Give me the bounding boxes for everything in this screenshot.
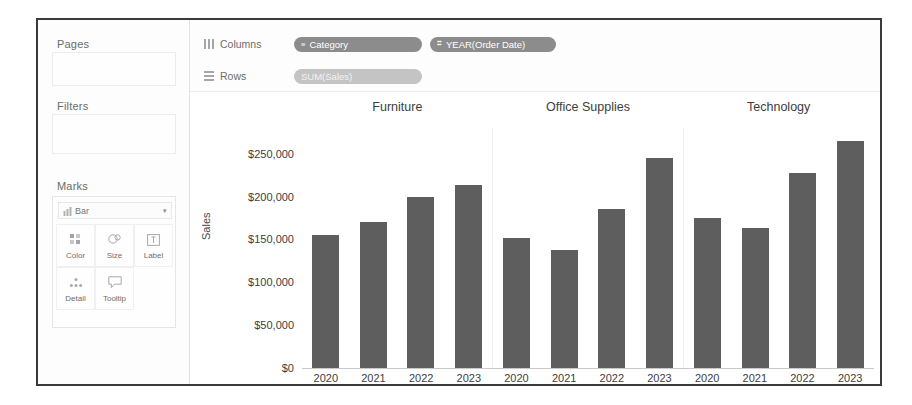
- bar-panels: [302, 128, 874, 368]
- bar-slot: [445, 128, 493, 368]
- bar[interactable]: [694, 218, 721, 368]
- bar[interactable]: [551, 250, 578, 368]
- marks-button-label[interactable]: Label: [134, 224, 173, 267]
- dimension-icon: ≡: [301, 40, 305, 49]
- marks-card: Bar ▾ Color: [52, 196, 176, 328]
- marks-button-label-text: Label: [144, 251, 164, 260]
- bar-slot: [302, 128, 350, 368]
- category-header: Office Supplies: [493, 100, 684, 124]
- x-axis-tick-label: 2023: [445, 372, 493, 392]
- shelves-area: Columns ≡ Category ⌗ YEAR(Order Date): [190, 20, 880, 92]
- category-header: Furniture: [302, 100, 493, 124]
- bar-slot: [350, 128, 398, 368]
- y-axis-tick-label: $100,000: [248, 276, 294, 288]
- marks-button-label: Color: [66, 251, 85, 260]
- marks-button-label: Tooltip: [103, 294, 126, 303]
- bar[interactable]: [360, 222, 387, 368]
- pill-sum-sales[interactable]: SUM(Sales): [294, 69, 422, 84]
- marks-button-label: Detail: [65, 294, 85, 303]
- header-spacer: [190, 100, 302, 124]
- category-header: Technology: [683, 100, 874, 124]
- label-box-icon: [147, 231, 160, 248]
- tooltip-bubble-icon: [108, 274, 122, 291]
- y-axis-title: Sales: [200, 212, 212, 240]
- marks-button-tooltip[interactable]: Tooltip: [95, 267, 134, 310]
- bar[interactable]: [455, 185, 482, 368]
- x-axis-tick-label: 2021: [731, 372, 779, 392]
- x-axis-labels: 2020202120222023202020212022202320202021…: [302, 372, 874, 392]
- columns-shelf[interactable]: Columns ≡ Category ⌗ YEAR(Order Date): [190, 30, 880, 58]
- bar[interactable]: [503, 238, 530, 368]
- y-axis-ticks: $0$50,000$100,000$150,000$200,000$250,00…: [216, 128, 300, 368]
- bar-slot: [493, 128, 541, 368]
- x-axis-tick-label: 2020: [302, 372, 350, 392]
- size-circles-icon: [108, 231, 122, 248]
- bar-slot: [732, 128, 780, 368]
- y-axis-tick-label: $0: [282, 362, 294, 374]
- plot-area: Sales $0$50,000$100,000$150,000$200,000$…: [190, 128, 874, 384]
- bar[interactable]: [837, 141, 864, 368]
- rows-shelf[interactable]: Rows SUM(Sales): [190, 62, 880, 90]
- bar[interactable]: [742, 228, 769, 368]
- columns-pill-zone[interactable]: ≡ Category ⌗ YEAR(Order Date): [294, 37, 556, 52]
- pages-shelf-dropzone[interactable]: [52, 52, 176, 86]
- filters-shelf-dropzone[interactable]: [52, 114, 176, 154]
- bar-slot: [541, 128, 589, 368]
- bar-slot: [684, 128, 732, 368]
- y-axis-tick-label: $50,000: [254, 319, 294, 331]
- bar-panel: [492, 128, 683, 368]
- bar-slot: [779, 128, 827, 368]
- date-icon: ⌗: [437, 39, 442, 49]
- bar-panel: [302, 128, 492, 368]
- rows-icon: [204, 71, 214, 81]
- bar-mark-icon: [63, 202, 72, 220]
- x-axis-tick-label: 2022: [779, 372, 827, 392]
- x-axis-tick-label: 2021: [350, 372, 398, 392]
- marks-button-detail[interactable]: Detail: [56, 267, 95, 310]
- filters-shelf-label: Filters: [57, 100, 88, 112]
- columns-icon: [204, 39, 214, 49]
- detail-dots-icon: [69, 274, 83, 291]
- bar[interactable]: [646, 158, 673, 368]
- x-axis-line: [302, 368, 874, 369]
- marks-button-color[interactable]: Color: [56, 224, 95, 267]
- x-axis-group: 2020202120222023: [493, 372, 684, 392]
- bar[interactable]: [789, 173, 816, 368]
- bar-slot: [588, 128, 636, 368]
- x-axis-tick-label: 2020: [683, 372, 731, 392]
- pages-shelf-label: Pages: [57, 38, 89, 50]
- marks-button-size[interactable]: Size: [95, 224, 134, 267]
- chevron-down-icon: ▾: [163, 207, 167, 215]
- bar-panel: [683, 128, 874, 368]
- visualization-pane: Furniture Office Supplies Technology Sal…: [190, 92, 880, 384]
- category-header-row: Furniture Office Supplies Technology: [190, 100, 874, 124]
- x-axis-group: 2020202120222023: [683, 372, 874, 392]
- bar-slot: [397, 128, 445, 368]
- y-axis-tick-label: $150,000: [248, 233, 294, 245]
- rows-shelf-label: Rows: [220, 70, 282, 82]
- bar[interactable]: [598, 209, 625, 368]
- color-palette-icon: [69, 231, 82, 248]
- marks-button-label: Size: [107, 251, 123, 260]
- marks-type-dropdown[interactable]: Bar ▾: [58, 202, 172, 219]
- x-axis-tick-label: 2023: [826, 372, 874, 392]
- tableau-worksheet: Pages Filters Marks Bar ▾: [36, 18, 882, 386]
- pill-label: Category: [309, 39, 348, 50]
- sidebar: Pages Filters Marks Bar ▾: [38, 20, 190, 384]
- x-axis-tick-label: 2021: [540, 372, 588, 392]
- bar-slot: [827, 128, 875, 368]
- pill-year-order-date[interactable]: ⌗ YEAR(Order Date): [430, 37, 556, 52]
- columns-shelf-label: Columns: [220, 38, 282, 50]
- x-axis-tick-label: 2022: [588, 372, 636, 392]
- x-axis-tick-label: 2022: [397, 372, 445, 392]
- x-axis-tick-label: 2023: [636, 372, 684, 392]
- bar[interactable]: [312, 235, 339, 368]
- bar[interactable]: [407, 197, 434, 368]
- x-axis-group: 2020202120222023: [302, 372, 493, 392]
- y-axis-tick-label: $200,000: [248, 191, 294, 203]
- rows-pill-zone[interactable]: SUM(Sales): [294, 69, 422, 84]
- marks-card-label: Marks: [57, 180, 88, 192]
- pill-category[interactable]: ≡ Category: [294, 37, 422, 52]
- marks-buttons-grid: Color Size: [56, 224, 174, 310]
- marks-type-value: Bar: [75, 206, 163, 216]
